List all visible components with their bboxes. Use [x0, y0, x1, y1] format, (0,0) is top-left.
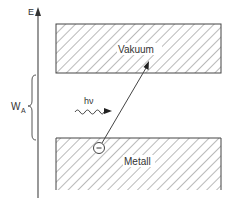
axis-label: E [28, 7, 34, 17]
electron [94, 143, 105, 154]
metal-label: Metall [124, 156, 151, 167]
brace-icon [28, 75, 36, 140]
metal-region: Metall [56, 138, 221, 190]
photon-arrowhead-icon [104, 108, 112, 114]
photoelectric-effect-diagram: E Vakuum Metall W A hν [0, 0, 233, 211]
work-function-brace: W A [11, 75, 36, 140]
work-function-subscript: A [21, 107, 26, 114]
energy-axis: E [28, 7, 41, 198]
work-function-symbol: W [11, 101, 21, 112]
photon: hν [75, 96, 112, 114]
vacuum-label: Vakuum [118, 44, 154, 55]
photon-wave-icon [75, 110, 104, 114]
vacuum-region: Vakuum [56, 24, 221, 73]
axis-arrow-icon [35, 7, 41, 16]
emission-line [102, 68, 146, 143]
photon-label: hν [84, 96, 94, 106]
